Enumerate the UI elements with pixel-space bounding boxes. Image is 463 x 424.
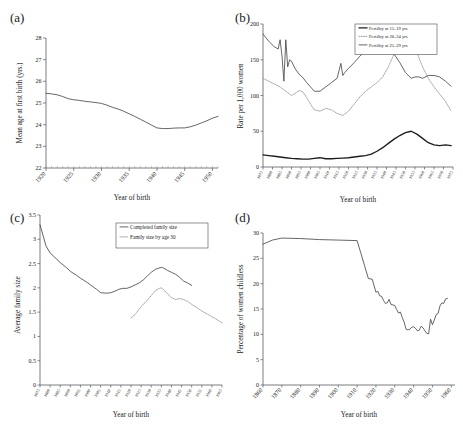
panel-b-xtick-label: 1915 xyxy=(331,170,339,180)
panel-a-xtick-label: 1950 xyxy=(201,171,213,184)
panel-c-series-1 xyxy=(131,288,222,323)
panel-d-xtick-label: 1870 xyxy=(270,387,282,400)
panel-d-xtick-label: 1860 xyxy=(251,387,263,400)
panel-b-xtick-label: 1935 xyxy=(369,170,377,180)
panel-a-ylabel: Mean age at first birth (yrs.) xyxy=(16,62,24,144)
panel-b: (b) 050100150200 18751880188518901895190… xyxy=(231,0,463,212)
panel-b-ytick-label: 50 xyxy=(253,128,259,134)
panel-c-legend: Completed family sizeFamily size by age … xyxy=(116,223,208,248)
panel-d-series-0 xyxy=(263,238,447,334)
panel-c-xtick-label: 1945 xyxy=(174,388,182,398)
panel-c-xtick-label: 1910 xyxy=(103,388,111,398)
panel-c-xtick-label: 1900 xyxy=(83,388,91,398)
panel-b-xtick-label: 1940 xyxy=(379,170,387,180)
panel-d-xlabel: Year of birth xyxy=(341,411,378,419)
panel-c-xtick-label: 1965 xyxy=(214,388,222,398)
panel-b-xtick-label: 1955 xyxy=(407,170,415,180)
panel-d-xtick-label: 1940 xyxy=(402,387,414,400)
panel-a-plot xyxy=(46,93,218,128)
panel-b-ylabel: Rate per 1,000 women xyxy=(237,63,245,128)
panel-a-xtick-label: 1940 xyxy=(145,171,157,184)
panel-d-xtick-label: 1930 xyxy=(383,387,395,400)
panel-c-ytick-label: 1.5 xyxy=(29,309,37,315)
panel-a-xticks: 1920192519301935194019451950 xyxy=(34,166,218,184)
panel-d-xtick-label: 1920 xyxy=(364,387,376,400)
panel-d-ytick-label: 25 xyxy=(253,255,259,261)
panel-b-xtick-label: 1925 xyxy=(350,170,358,180)
panel-a-ytick-label: 25 xyxy=(36,100,42,106)
panel-a-axes xyxy=(46,38,218,168)
panel-c-xlabel: Year of birth xyxy=(113,411,150,419)
panel-c-xtick-label: 1950 xyxy=(184,388,192,398)
panel-c-xtick-label: 1905 xyxy=(93,388,101,398)
panel-a-ytick-label: 24 xyxy=(36,122,42,128)
panel-d-label: (d) xyxy=(235,210,250,225)
panel-b-xtick-label: 1905 xyxy=(312,170,320,180)
legend-label-1: Fertility at 20–24 yrs xyxy=(369,34,408,39)
panel-a-xtick-label: 1920 xyxy=(34,171,46,184)
panel-c-ytick-label: 0 xyxy=(33,382,36,388)
panel-b-xtick-label: 1890 xyxy=(284,170,292,180)
panel-d-ytick-label: 5 xyxy=(256,357,259,363)
panel-c-ytick-label: 2.5 xyxy=(29,261,37,267)
panel-d: (d) 051015202530 18601870188018901900191… xyxy=(231,205,463,424)
panel-b-xlabel: Year of birth xyxy=(340,196,377,204)
panel-c-label: (c) xyxy=(10,210,24,225)
panel-b-xtick-label: 1945 xyxy=(388,170,396,180)
panel-a-xtick-label: 1925 xyxy=(62,171,74,184)
panel-a-label: (a) xyxy=(10,10,24,25)
panel-c-xtick-label: 1895 xyxy=(73,388,81,398)
panel-c-ytick-label: 2 xyxy=(33,285,36,291)
panel-b-xtick-label: 1910 xyxy=(322,170,330,180)
panel-b-xtick-label: 1950 xyxy=(398,170,406,180)
panel-c-xtick-label: 1885 xyxy=(53,388,61,398)
panel-c-xtick-label: 1955 xyxy=(194,388,202,398)
panel-d-ytick-label: 10 xyxy=(253,331,259,337)
panel-b-label: (b) xyxy=(235,10,250,25)
panel-b-ytick-label: 0 xyxy=(256,164,259,170)
panel-b-xtick-label: 1970 xyxy=(436,170,444,180)
panel-b-xtick-label: 1875 xyxy=(255,170,263,180)
panel-c-ytick-label: 3 xyxy=(33,236,36,242)
panel-d-xtick-label: 1960 xyxy=(439,387,451,400)
panel-d-ytick-label: 20 xyxy=(253,281,259,287)
panel-a: (a) 22232425262728 192019251930193519401… xyxy=(0,0,232,212)
panel-a-series-0 xyxy=(46,93,218,128)
panel-c-xtick-label: 1920 xyxy=(123,388,131,398)
panel-c-ytick-label: 3.5 xyxy=(29,212,37,218)
panel-b-xtick-label: 1930 xyxy=(360,170,368,180)
panel-a-ytick-label: 22 xyxy=(36,165,42,171)
panel-c: (c) 00.511.522.533.5 1875188018851890189… xyxy=(0,205,232,424)
panel-a-ytick-label: 26 xyxy=(36,78,42,84)
panel-d-axes xyxy=(263,233,455,385)
panel-c-xtick-label: 1960 xyxy=(204,388,212,398)
panel-b-xtick-label: 1885 xyxy=(274,170,282,180)
panel-d-ytick-label: 30 xyxy=(253,230,259,236)
panel-c-xtick-label: 1935 xyxy=(154,388,162,398)
panel-b-xtick-label: 1900 xyxy=(303,170,311,180)
panel-b-yticks: 050100150200 xyxy=(250,21,263,170)
legend-label-1: Family size by age 30 xyxy=(130,234,176,240)
panel-a-ytick-label: 27 xyxy=(36,57,42,63)
panel-b-xtick-label: 1880 xyxy=(265,170,273,180)
panel-a-yticks: 22232425262728 xyxy=(36,35,47,171)
panel-d-xtick-label: 1890 xyxy=(308,387,320,400)
legend-label-0: Completed family size xyxy=(130,224,178,230)
panel-d-xtick-label: 1910 xyxy=(345,387,357,400)
panel-b-series-0 xyxy=(263,131,451,159)
panel-a-xtick-label: 1930 xyxy=(90,171,102,184)
figure-container: (a) 22232425262728 192019251930193519401… xyxy=(0,0,463,424)
panel-d-xtick-label: 1880 xyxy=(289,387,301,400)
panel-a-xtick-label: 1935 xyxy=(117,171,129,184)
legend-label-2: Fertility at 25–29 yrs xyxy=(369,43,408,48)
panel-d-plot xyxy=(263,238,447,334)
panel-b-xticks: 1875188018851890189519001905191019151920… xyxy=(255,167,453,180)
panel-d-xtick-label: 1900 xyxy=(327,387,339,400)
panel-b-xtick-label: 1965 xyxy=(426,170,434,180)
panel-c-ylabel: Average family size xyxy=(14,276,22,333)
panel-c-xtick-label: 1930 xyxy=(144,388,152,398)
panel-c-yticks: 00.511.522.533.5 xyxy=(29,212,41,388)
panel-c-xticks: 1875188018851890189519001905191019151920… xyxy=(32,385,222,398)
legend-label-0: Fertility at 15–19 yrs xyxy=(369,26,408,31)
panel-a-ytick-label: 23 xyxy=(36,143,42,149)
